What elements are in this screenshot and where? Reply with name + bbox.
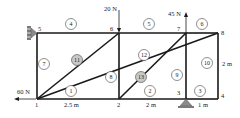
member-number: 4 [70,21,73,27]
member-number-badge: 12 [139,50,150,61]
member-number-badge: 5 [144,19,155,30]
member-number-badge: 13 [136,72,147,83]
member-number: 6 [201,21,204,27]
member-number-badge: 3 [195,86,206,97]
pin-support-icon [178,99,194,108]
supports-layer [27,26,194,108]
load-label: 45 N [168,10,181,17]
dimension-label: 1 m [198,101,208,108]
node-label-5: 5 [38,25,41,32]
member-number-badge: 1 [66,86,77,97]
load-label: 20 N [104,5,117,12]
truss-diagram: 1234567820 N45 N60 N2.5 m2 m1 m2 m 12345… [0,0,240,118]
member-number-badge: 11 [72,55,83,66]
members-layer [37,33,218,99]
dimension-label: 2 m [146,101,156,108]
node-label-3: 3 [177,89,180,96]
member-number: 3 [199,88,202,94]
member-number: 9 [176,72,179,78]
node-label-7: 7 [177,25,181,32]
member-number: 1 [70,88,73,94]
load-arrow-20n-icon [117,10,121,33]
dimension-label: 2.5 m [64,101,79,108]
member-number: 2 [149,88,152,94]
node-label-6: 6 [110,25,114,32]
member-number-badge: 2 [145,86,156,97]
node-label-4: 4 [221,92,225,99]
member-number: 10 [204,60,210,66]
member-12 [37,33,218,99]
node-label-1: 1 [35,101,38,108]
load-arrow-45n-icon [184,12,188,33]
dimension-label: 2 m [222,60,232,67]
member-number-badge: 8 [106,72,117,83]
member-number: 11 [74,57,80,63]
member-number: 5 [148,21,151,27]
member-number: 7 [43,61,46,67]
node-label-2: 2 [117,101,120,108]
load-label: 60 N [17,88,30,95]
node-label-8: 8 [221,29,224,36]
member-number-badge: 10 [202,58,213,69]
member-number-badge: 6 [197,19,208,30]
load-arrow-60n-icon [14,97,36,101]
member-number-badge: 7 [39,59,50,70]
member-number: 13 [138,74,144,80]
member-number-badge: 4 [66,19,77,30]
member-number-badge: 9 [172,70,183,81]
loads-layer [14,10,188,101]
member-number: 12 [141,52,147,58]
wall-pin-support-icon [27,26,37,40]
member-number: 8 [110,74,113,80]
